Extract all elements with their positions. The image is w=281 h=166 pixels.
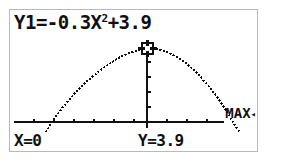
y-coordinate-readout: Y=3.9 <box>138 132 184 150</box>
max-caret-icon: ◂ <box>251 109 256 119</box>
y-axis-ticks <box>148 62 151 107</box>
cross-cursor <box>138 40 157 57</box>
x-coordinate-readout: X=0 <box>14 132 41 150</box>
equation-suffix: +3.9 <box>108 11 152 33</box>
parabola-curve <box>46 48 240 132</box>
equation-display: Y1=-0.3X2+3.9 <box>14 12 151 33</box>
max-label: MAX <box>225 105 250 121</box>
max-operation-flag: MAX◂ <box>225 106 256 121</box>
graph-plot-area[interactable] <box>10 32 257 132</box>
calculator-screen: Y1=-0.3X2+3.9 <box>9 9 258 152</box>
parabola-graph-svg <box>10 32 257 132</box>
equation-prefix: Y1=-0.3X <box>14 11 102 33</box>
